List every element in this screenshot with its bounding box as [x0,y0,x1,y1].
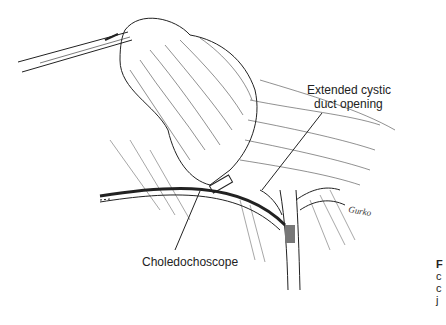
leader-scope [175,191,200,250]
label-cystic-duct: Extended cystic duct opening [307,83,391,111]
grasper-instrument [18,32,132,72]
surgical-illustration: Gurko [0,0,446,325]
tissue-hatching [110,140,355,262]
caption-fragment-2: c [436,270,442,282]
bile-ducts [260,188,345,290]
label-choledochoscope: Choledochoscope [142,255,238,269]
label-line-1: Extended cystic [307,83,391,97]
label-line-2: duct opening [307,97,391,111]
caption-fragment-4: j [436,294,438,306]
artist-signature: Gurko [348,204,373,218]
gallbladder [120,18,257,185]
caption-fragment-1: F [436,258,443,270]
caption-fragment-3: c [436,282,442,294]
